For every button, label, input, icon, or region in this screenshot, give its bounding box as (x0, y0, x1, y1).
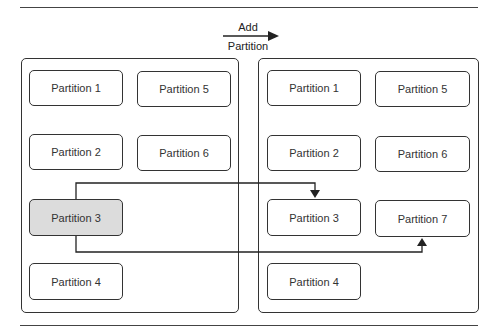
top-rule (20, 7, 478, 8)
after-partition-1: Partition 1 (267, 70, 361, 106)
after-partition-7: Partition 7 (375, 200, 470, 237)
before-partition-6: Partition 6 (137, 135, 231, 171)
after-partition-5: Partition 5 (375, 71, 470, 107)
after-partition-3: Partition 3 (267, 199, 361, 236)
before-partition-5: Partition 5 (137, 71, 231, 107)
before-partition-2: Partition 2 (29, 134, 123, 170)
before-partition-3: Partition 3 (29, 199, 123, 236)
before-partition-4: Partition 4 (29, 263, 123, 300)
add-partition-label-bottom: Partition (218, 40, 278, 52)
bottom-rule (20, 325, 478, 326)
after-partition-6: Partition 6 (375, 136, 470, 172)
after-partition-2: Partition 2 (267, 135, 361, 171)
before-partition-1: Partition 1 (29, 70, 123, 106)
add-partition-label-top: Add (228, 21, 268, 33)
after-partition-4: Partition 4 (267, 263, 361, 300)
